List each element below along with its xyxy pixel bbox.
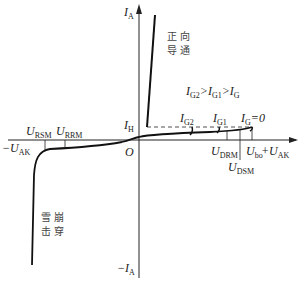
ig2-label: IG2 (180, 112, 194, 127)
y-axis-pos-label: IA (124, 6, 134, 21)
ig2-branch (190, 127, 192, 135)
gate-current-relation: IG2>IG1>IG (186, 85, 240, 100)
x-axis-neg-label: −UAK (2, 142, 30, 157)
ursm-label: URSM (26, 125, 52, 140)
x-axis-pos-label: +UAK (261, 145, 289, 160)
y-axis-arrow-icon (136, 4, 142, 14)
reverse-blocking-curve (32, 142, 122, 265)
ih-label: IH (124, 119, 134, 134)
origin-label: O (125, 146, 134, 158)
udsm-label: UDSM (228, 161, 254, 176)
avalanche-breakdown-label: 雪崩 击穿 (41, 211, 67, 239)
x-axis-arrow-icon (289, 137, 298, 143)
urrm-label: URRM (56, 125, 82, 140)
udrm-label: UDRM (211, 145, 238, 160)
ig0-label: IG=0 (241, 112, 265, 127)
y-axis-neg-label: −IA (117, 262, 135, 277)
diagram-graphics (0, 0, 301, 282)
ig1-label: IG1 (213, 112, 227, 127)
forward-conduction-label: 正向 导通 (167, 30, 193, 58)
thyristor-iv-diagram: IA −IA +UAK −UAK O 正向 导通 雪崩 击穿 IG2>IG1>I… (0, 0, 301, 282)
ubo-label: Ubo (246, 145, 263, 160)
forward-conduction-curve (147, 15, 155, 127)
